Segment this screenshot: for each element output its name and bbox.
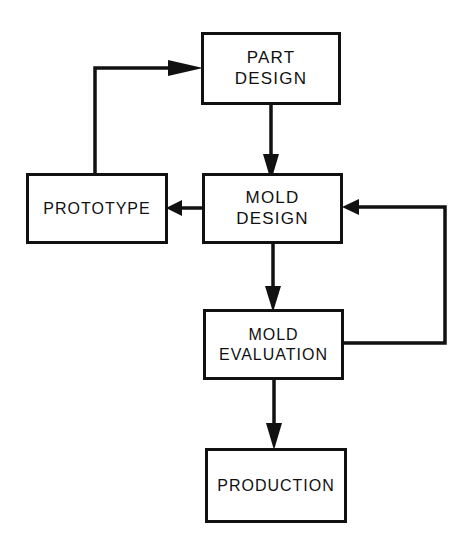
edge-part-design-to-mold-design	[263, 105, 279, 181]
node-prototype-label: PROTOTYPE	[43, 199, 150, 219]
node-production[interactable]: PRODUCTION	[205, 448, 347, 523]
edge-prototype-to-part-design	[95, 60, 203, 173]
node-mold-design[interactable]: MOLD DESIGN	[202, 173, 343, 244]
node-mold-design-label: MOLD DESIGN	[236, 188, 308, 229]
node-mold-evaluation[interactable]: MOLD EVALUATION	[203, 309, 344, 380]
node-prototype[interactable]: PROTOTYPE	[26, 173, 168, 244]
node-part-design-label: PART DESIGN	[235, 48, 307, 89]
edge-mold-evaluation-to-production	[266, 380, 282, 450]
node-part-design[interactable]: PART DESIGN	[201, 32, 341, 105]
edge-mold-design-to-prototype	[166, 200, 202, 216]
node-mold-evaluation-label: MOLD EVALUATION	[219, 325, 328, 364]
node-production-label: PRODUCTION	[217, 476, 335, 496]
flowchart-diagram: PART DESIGN PROTOTYPE MOLD DESIGN MOLD E…	[0, 0, 469, 549]
edge-mold-design-to-mold-evaluation	[265, 244, 281, 312]
edge-mold-evaluation-to-mold-design	[342, 199, 445, 343]
